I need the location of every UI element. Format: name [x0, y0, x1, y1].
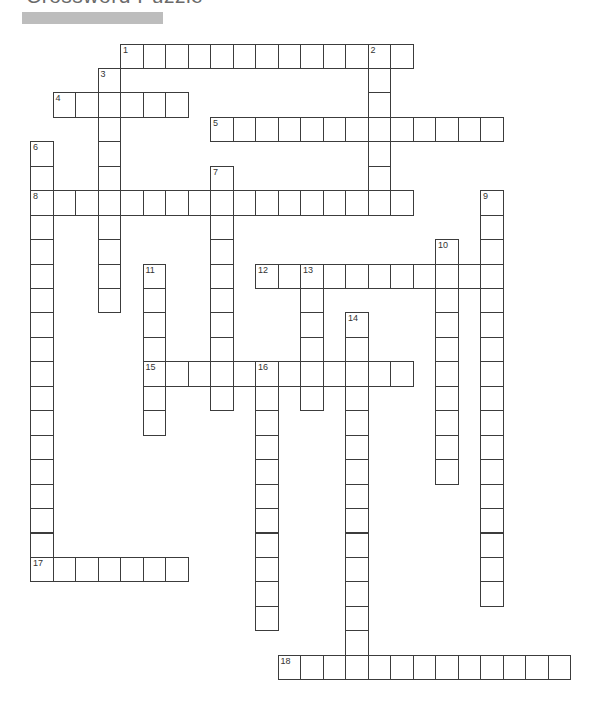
- crossword-cell[interactable]: [480, 239, 504, 264]
- crossword-cell[interactable]: 17: [30, 557, 54, 582]
- crossword-cell[interactable]: [278, 361, 302, 386]
- crossword-cell[interactable]: [345, 44, 369, 69]
- crossword-cell[interactable]: [458, 117, 482, 142]
- crossword-cell[interactable]: [30, 361, 54, 386]
- crossword-cell[interactable]: [30, 386, 54, 411]
- crossword-cell[interactable]: [345, 264, 369, 289]
- crossword-cell[interactable]: [480, 581, 504, 606]
- crossword-cell[interactable]: [368, 655, 392, 680]
- crossword-cell[interactable]: [30, 239, 54, 264]
- crossword-cell[interactable]: [143, 386, 167, 411]
- crossword-cell[interactable]: [345, 508, 369, 533]
- crossword-cell[interactable]: [30, 508, 54, 533]
- crossword-cell[interactable]: [435, 312, 459, 337]
- crossword-cell[interactable]: [345, 459, 369, 484]
- crossword-cell[interactable]: [548, 655, 572, 680]
- crossword-cell[interactable]: [435, 288, 459, 313]
- crossword-cell[interactable]: [233, 190, 257, 215]
- crossword-cell[interactable]: [210, 337, 234, 362]
- crossword-cell[interactable]: [53, 557, 77, 582]
- crossword-cell[interactable]: [255, 581, 279, 606]
- crossword-cell[interactable]: [480, 410, 504, 435]
- crossword-cell[interactable]: [345, 410, 369, 435]
- crossword-cell[interactable]: [345, 533, 369, 558]
- crossword-cell[interactable]: [255, 484, 279, 509]
- crossword-cell[interactable]: [233, 117, 257, 142]
- crossword-cell[interactable]: [480, 288, 504, 313]
- crossword-cell[interactable]: [120, 190, 144, 215]
- crossword-cell[interactable]: [345, 117, 369, 142]
- crossword-cell[interactable]: [30, 264, 54, 289]
- crossword-cell[interactable]: 1: [120, 44, 144, 69]
- crossword-cell[interactable]: [30, 435, 54, 460]
- crossword-cell[interactable]: [323, 264, 347, 289]
- crossword-cell[interactable]: [300, 386, 324, 411]
- crossword-cell[interactable]: [188, 361, 212, 386]
- crossword-cell[interactable]: [480, 557, 504, 582]
- crossword-cell[interactable]: [30, 288, 54, 313]
- crossword-cell[interactable]: [98, 92, 122, 117]
- crossword-cell[interactable]: [435, 117, 459, 142]
- crossword-cell[interactable]: 16: [255, 361, 279, 386]
- crossword-cell[interactable]: [255, 410, 279, 435]
- crossword-cell[interactable]: [143, 288, 167, 313]
- crossword-cell[interactable]: [278, 117, 302, 142]
- crossword-cell[interactable]: [30, 484, 54, 509]
- crossword-cell[interactable]: [255, 386, 279, 411]
- crossword-cell[interactable]: [255, 44, 279, 69]
- crossword-cell[interactable]: [30, 166, 54, 191]
- crossword-cell[interactable]: [368, 190, 392, 215]
- crossword-cell[interactable]: [480, 508, 504, 533]
- crossword-cell[interactable]: [300, 288, 324, 313]
- crossword-cell[interactable]: [98, 288, 122, 313]
- crossword-cell[interactable]: [278, 44, 302, 69]
- crossword-cell[interactable]: 18: [278, 655, 302, 680]
- crossword-cell[interactable]: [345, 337, 369, 362]
- crossword-cell[interactable]: [75, 190, 99, 215]
- crossword-cell[interactable]: [210, 312, 234, 337]
- crossword-cell[interactable]: [210, 239, 234, 264]
- crossword-cell[interactable]: [278, 264, 302, 289]
- crossword-cell[interactable]: [255, 557, 279, 582]
- crossword-cell[interactable]: [413, 655, 437, 680]
- crossword-cell[interactable]: [98, 190, 122, 215]
- crossword-cell[interactable]: [480, 533, 504, 558]
- crossword-cell[interactable]: [323, 655, 347, 680]
- crossword-cell[interactable]: [345, 361, 369, 386]
- crossword-cell[interactable]: [210, 386, 234, 411]
- crossword-cell[interactable]: [300, 190, 324, 215]
- crossword-cell[interactable]: [210, 215, 234, 240]
- crossword-cell[interactable]: 2: [368, 44, 392, 69]
- crossword-cell[interactable]: [435, 337, 459, 362]
- crossword-cell[interactable]: [323, 190, 347, 215]
- crossword-cell[interactable]: [345, 606, 369, 631]
- crossword-cell[interactable]: [435, 361, 459, 386]
- crossword-cell[interactable]: [165, 361, 189, 386]
- crossword-cell[interactable]: 9: [480, 190, 504, 215]
- crossword-cell[interactable]: [345, 630, 369, 655]
- crossword-cell[interactable]: [143, 557, 167, 582]
- crossword-cell[interactable]: [323, 117, 347, 142]
- crossword-cell[interactable]: [480, 435, 504, 460]
- crossword-cell[interactable]: [143, 312, 167, 337]
- crossword-cell[interactable]: [390, 44, 414, 69]
- crossword-cell[interactable]: 11: [143, 264, 167, 289]
- crossword-cell[interactable]: [30, 337, 54, 362]
- crossword-cell[interactable]: [323, 361, 347, 386]
- crossword-cell[interactable]: [143, 337, 167, 362]
- crossword-cell[interactable]: [368, 361, 392, 386]
- crossword-cell[interactable]: [165, 557, 189, 582]
- crossword-cell[interactable]: [435, 435, 459, 460]
- crossword-cell[interactable]: [345, 581, 369, 606]
- crossword-cell[interactable]: [390, 190, 414, 215]
- crossword-cell[interactable]: [143, 410, 167, 435]
- crossword-cell[interactable]: [210, 264, 234, 289]
- crossword-cell[interactable]: [233, 44, 257, 69]
- crossword-cell[interactable]: [98, 215, 122, 240]
- crossword-cell[interactable]: [413, 117, 437, 142]
- crossword-cell[interactable]: [300, 337, 324, 362]
- crossword-cell[interactable]: [75, 557, 99, 582]
- crossword-cell[interactable]: [525, 655, 549, 680]
- crossword-cell[interactable]: [143, 190, 167, 215]
- crossword-cell[interactable]: [188, 44, 212, 69]
